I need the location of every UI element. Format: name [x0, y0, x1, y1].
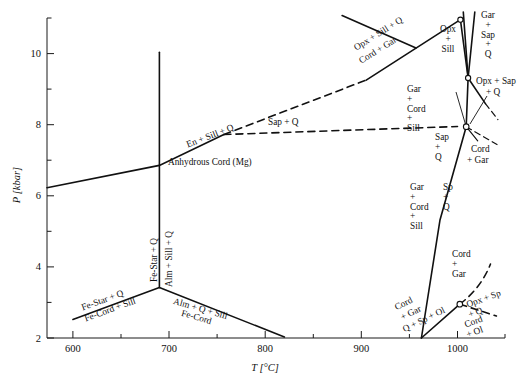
label-cord-gar-mid-stack: Cord + Gar [452, 250, 480, 279]
x-tick-label: 600 [65, 343, 81, 354]
label-alm-sill-q-vertical: Alm + Sill + Q [164, 231, 174, 287]
label-sill-3: Sill [410, 222, 436, 232]
label-sp-q-stack: Sp + Q [443, 183, 461, 212]
x-major-ticks [73, 331, 458, 338]
label-sap-q-stack: Sap + Q [435, 133, 457, 162]
y-tick-label: 6 [36, 190, 41, 201]
invariant-point-mid [466, 75, 471, 80]
phase-diagram: 600 700 800 900 1000 2 4 6 8 10 T [°C] P… [0, 0, 522, 382]
invariant-point-lower [463, 124, 469, 130]
invariant-point-upper [458, 17, 463, 22]
label-anhydrous-cord-mg: Anhydrous Cord (Mg) [168, 157, 252, 167]
label-gar-cord-sill-stack: Gar + Cord + Sill [407, 85, 433, 134]
label-cord-gar-right-1: Cord [471, 144, 490, 154]
y-tick-label: 10 [31, 48, 42, 59]
label-q: Q [476, 50, 500, 60]
label-sap-q: Sap + Q [268, 117, 299, 127]
invariant-point-bottom [457, 301, 463, 307]
y-tick-label: 8 [36, 119, 41, 130]
curve-gar-cord-sill-link [466, 78, 468, 127]
label-q-2: Q [443, 203, 461, 213]
x-tick-label: 700 [161, 343, 177, 354]
y-tick-label: 4 [36, 261, 42, 272]
tie-line-2 [470, 96, 487, 124]
y-minor-ticks [47, 18, 52, 302]
curve-opx-sap-q-tail [485, 104, 498, 120]
x-minor-ticks [121, 334, 505, 338]
y-axis-title: P [kbar] [11, 167, 22, 204]
y-major-ticks [47, 54, 54, 338]
y-tick-label: 2 [36, 333, 41, 344]
y-tick-labels: 2 4 6 8 10 [31, 48, 42, 343]
x-axis-title: T [°C] [251, 362, 279, 373]
label-sill-2: Sill [407, 124, 433, 134]
label-opx-sap-q-line2: + Q [486, 87, 500, 97]
label-gar-sap-q-stack: Gar + Sap + Q [476, 11, 500, 60]
label-opx-sill-stack: Opx + Sill [437, 25, 459, 54]
curve-lower-inv-dashed-right [466, 127, 497, 145]
label-gar-4: Gar [452, 270, 480, 280]
label-cord-gar-right-2: + Gar [467, 155, 489, 165]
curve-gar-sap-q-steep [468, 12, 475, 78]
label-q-lower: Q [435, 153, 457, 163]
x-tick-label: 800 [257, 343, 273, 354]
x-tick-label: 1000 [447, 343, 468, 354]
label-gar-cord-sill-lower-stack: Gar + Cord + Sill [410, 183, 436, 232]
tie-line-1 [456, 92, 466, 127]
x-tick-label: 900 [353, 343, 369, 354]
x-tick-labels: 600 700 800 900 1000 [65, 343, 468, 354]
label-sill: Sill [437, 45, 459, 55]
label-opx-sap-q-line1: Opx + Sap [476, 76, 516, 86]
label-fe-star-q-vertical: Fe-Star + Q [149, 238, 159, 282]
